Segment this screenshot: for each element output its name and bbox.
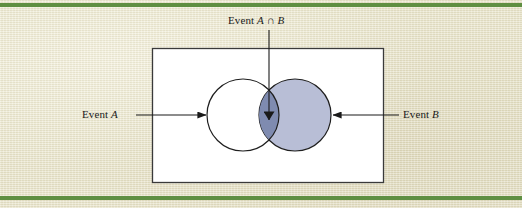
label-event-b-prefix: Event xyxy=(403,108,432,120)
label-event-a-prefix: Event xyxy=(82,108,111,120)
label-event-b-symbol: B xyxy=(432,108,439,120)
label-event-a-intersect-b: Event A ∩ B xyxy=(228,14,284,26)
label-event-a-symbol: A xyxy=(111,108,118,120)
label-event-b: Event B xyxy=(403,108,439,120)
label-intersection-symbol-b: B xyxy=(278,14,285,26)
label-event-a: Event A xyxy=(82,108,118,120)
venn-diagram-figure: Event A Event B Event A ∩ B xyxy=(0,0,522,208)
label-intersection-prefix: Event xyxy=(228,14,257,26)
intersection-operator-icon: ∩ xyxy=(264,14,278,26)
label-intersection-symbol-a: A xyxy=(257,14,264,26)
venn-diagram-graphic xyxy=(0,0,522,208)
